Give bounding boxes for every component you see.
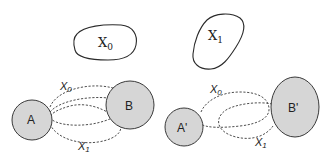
path-x1-right-label: X1	[254, 136, 267, 150]
set-x1: X1	[193, 14, 244, 69]
right-panel: A' B' X0 X1	[165, 77, 319, 150]
set-x1-label: X1	[208, 28, 223, 45]
path-x1-left-label: X1	[77, 140, 90, 154]
diagram-canvas: X0 X1 A B X0 X1 A' B' X0 X1	[0, 0, 334, 159]
node-a-prime-label: A'	[177, 121, 187, 135]
node-b-label: B	[125, 99, 133, 113]
path-x1-right	[219, 103, 273, 139]
path-x0-right-label: X0	[209, 83, 222, 97]
path-x0-left-label: X0	[59, 80, 72, 94]
left-panel: A B X0 X1	[12, 80, 154, 154]
path-x0-right	[201, 92, 269, 127]
set-x0-label: X0	[98, 35, 113, 52]
set-x0: X0	[74, 25, 137, 60]
node-b-prime-label: B'	[288, 101, 298, 115]
node-a-label: A	[27, 113, 35, 127]
